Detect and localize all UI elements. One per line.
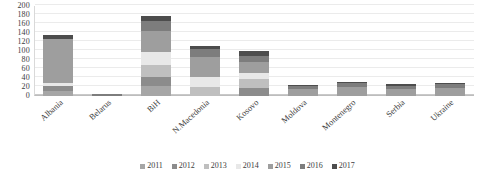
bar-segment[interactable]: [141, 31, 171, 52]
legend-item[interactable]: 2016: [300, 162, 323, 170]
legend-item[interactable]: 2013: [204, 162, 227, 170]
legend-swatch-icon: [204, 164, 209, 169]
legend-label: 2017: [339, 162, 355, 170]
legend-swatch-icon: [172, 164, 177, 169]
bar-slot: [83, 6, 132, 96]
y-axis-tick-label: 100: [17, 47, 30, 55]
bar-segment[interactable]: [386, 89, 416, 96]
bar-segment[interactable]: [141, 21, 171, 31]
stacked-bar-chart: 200180160140120100806040200 AlbaniaBelar…: [0, 0, 495, 182]
legend-label: 2011: [147, 162, 163, 170]
y-axis-tick-label: 160: [17, 20, 30, 28]
legend-swatch-icon: [140, 164, 145, 169]
bar-segment[interactable]: [190, 57, 220, 77]
bar-segment[interactable]: [190, 77, 220, 87]
legend-swatch-icon: [300, 164, 305, 169]
legend-item[interactable]: 2015: [268, 162, 291, 170]
legend-item[interactable]: 2017: [332, 162, 355, 170]
bar-segment[interactable]: [141, 77, 171, 86]
stacked-bar[interactable]: [288, 85, 318, 96]
bar-slot: [181, 6, 230, 96]
stacked-bar[interactable]: [239, 51, 269, 96]
bar-segment[interactable]: [337, 87, 367, 96]
x-axis-label: Kosovo: [234, 98, 260, 122]
bar-slot: [230, 6, 279, 96]
bar-slot: [327, 6, 376, 96]
stacked-bar[interactable]: [141, 16, 171, 96]
x-axis-labels: AlbaniaBelarusBiHN.MacedoniaKosovoMoldov…: [34, 96, 474, 154]
legend-swatch-icon: [268, 164, 273, 169]
bar-slot: [132, 6, 181, 96]
x-axis-label: Ukraine: [429, 98, 455, 123]
gridline: [35, 4, 474, 5]
stacked-bar[interactable]: [386, 84, 416, 96]
legend-label: 2014: [243, 162, 259, 170]
y-axis-tick-label: 200: [17, 2, 30, 10]
bar-segment[interactable]: [239, 62, 269, 73]
y-axis-tick-label: 120: [17, 38, 30, 46]
y-axis: 200180160140120100806040200: [0, 0, 32, 96]
bar-segment[interactable]: [43, 39, 73, 82]
bar-segment[interactable]: [239, 79, 269, 88]
legend-item[interactable]: 2014: [236, 162, 259, 170]
bar-segment[interactable]: [190, 87, 220, 96]
bar-segment[interactable]: [141, 52, 171, 66]
legend-swatch-icon: [236, 164, 241, 169]
x-axis-label: Albania: [38, 98, 64, 123]
y-axis-tick-label: 80: [22, 56, 30, 64]
stacked-bar[interactable]: [337, 82, 367, 96]
y-axis-tick-label: 40: [22, 74, 30, 82]
legend-item[interactable]: 2011: [140, 162, 163, 170]
y-axis-tick-label: 180: [17, 11, 30, 19]
bar-slot: [34, 6, 83, 96]
legend-label: 2013: [211, 162, 227, 170]
bar-segment[interactable]: [288, 89, 318, 96]
legend-label: 2015: [275, 162, 291, 170]
chart-legend: 2011201220132014201520162017: [0, 158, 495, 174]
y-axis-tick-label: 0: [26, 92, 30, 100]
x-axis-label: N.Macedonia: [171, 98, 211, 135]
x-axis-label: Serbia: [385, 98, 407, 119]
legend-item[interactable]: 2012: [172, 162, 195, 170]
stacked-bar[interactable]: [190, 46, 220, 96]
x-axis-label: BiH: [146, 98, 163, 114]
bar-segment[interactable]: [435, 88, 465, 96]
bar-segment[interactable]: [141, 86, 171, 96]
bar-segment[interactable]: [190, 49, 220, 57]
bar-slot: [278, 6, 327, 96]
x-axis-label: Moldova: [280, 98, 309, 125]
bar-slot: [376, 6, 425, 96]
y-axis-tick-label: 20: [22, 83, 30, 91]
bar-slot: [425, 6, 474, 96]
bar-segment[interactable]: [141, 65, 171, 77]
bar-series-container: [34, 6, 474, 96]
stacked-bar[interactable]: [43, 35, 73, 96]
stacked-bar[interactable]: [435, 83, 465, 96]
y-axis-tick-label: 140: [17, 29, 30, 37]
bar-segment[interactable]: [239, 88, 269, 96]
y-axis-tick-label: 60: [22, 65, 30, 73]
legend-label: 2016: [307, 162, 323, 170]
legend-label: 2012: [179, 162, 195, 170]
x-axis-label: Montenegro: [321, 98, 358, 132]
x-axis-label: Belarus: [88, 98, 113, 122]
legend-swatch-icon: [332, 164, 337, 169]
